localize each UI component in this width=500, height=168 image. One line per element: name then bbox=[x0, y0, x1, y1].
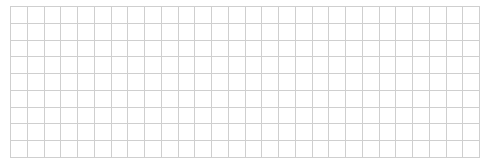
background bbox=[0, 0, 500, 168]
grid-paper bbox=[0, 0, 500, 168]
